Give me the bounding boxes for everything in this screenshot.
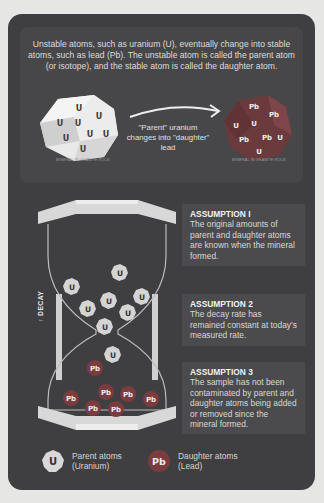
- svg-text:U: U: [102, 323, 108, 332]
- atom-u: U: [133, 288, 150, 305]
- assumption-1-title: ASSUMPTION I: [190, 209, 297, 219]
- svg-text:Pb: Pb: [249, 103, 259, 111]
- svg-text:Pb: Pb: [146, 396, 156, 404]
- atom-u-falling: U: [104, 346, 121, 363]
- svg-text:Pb: Pb: [262, 134, 272, 142]
- svg-text:U: U: [49, 456, 57, 467]
- legend-parent-line1: Parent atoms: [72, 451, 122, 461]
- left-mineral-label: MINERAL IN GRANITE ROCK: [38, 158, 128, 162]
- curved-arrow-icon: [128, 101, 224, 121]
- hourglass-illustration: U U U U U U U U Pb Pb Pb Pb Pb Pb Pb: [38, 200, 178, 430]
- atom-pb: Pb: [108, 401, 124, 417]
- atom-u: U: [63, 134, 70, 143]
- svg-text:Pb: Pb: [239, 136, 249, 144]
- assumption-3-text: The sample has not been contaminated by …: [190, 377, 297, 429]
- atom-pb: Pb: [143, 391, 159, 407]
- intro-text: Unstable atoms, such as uranium (U), eve…: [26, 39, 297, 72]
- atom-u: U: [80, 145, 87, 154]
- arrow-caption: "Parent" uranium changes into "daughter"…: [123, 123, 213, 153]
- atom-u: U: [111, 264, 128, 281]
- intro-panel: Unstable atoms, such as uranium (U), eve…: [20, 27, 303, 183]
- legend-parent: U Parent atoms (Uranium): [42, 450, 122, 472]
- uranium-atom-icon: U: [42, 450, 64, 472]
- atom-u: U: [63, 278, 80, 295]
- svg-text:U: U: [233, 122, 239, 130]
- assumption-2-box: ASSUMPTION 2 The decay rate has remained…: [182, 294, 305, 346]
- atom-u: U: [96, 318, 113, 335]
- atom-pb: Pb: [87, 360, 103, 376]
- svg-text:Pb: Pb: [90, 365, 100, 373]
- atom-pb: Pb: [85, 400, 101, 416]
- svg-text:Pb: Pb: [123, 391, 133, 399]
- atom-pb: Pb: [120, 386, 136, 402]
- atom-u: U: [96, 112, 103, 121]
- up-arrow-icon: ↑: [37, 318, 44, 322]
- atom-u: U: [57, 119, 64, 128]
- svg-text:Pb: Pb: [269, 111, 279, 119]
- atom-pb: Pb: [98, 384, 114, 400]
- atom-u: U: [100, 292, 117, 309]
- svg-text:Pb: Pb: [66, 395, 76, 403]
- decay-label: DECAY: [37, 291, 44, 316]
- decay-axis-label: ↑ DECAY: [37, 291, 44, 322]
- svg-text:U: U: [256, 148, 262, 156]
- svg-text:U: U: [117, 269, 123, 278]
- uranium-mineral-illustration: U U U U U U U U: [38, 95, 132, 163]
- assumption-1-text: The original amounts of parent and daugh…: [190, 219, 297, 261]
- legend-parent-line2: (Uranium): [72, 461, 122, 471]
- svg-text:U: U: [139, 293, 145, 302]
- right-mineral-label: MINERAL IN GRANITE ROCK: [214, 158, 304, 162]
- svg-text:U: U: [110, 351, 116, 360]
- svg-text:Pb: Pb: [88, 405, 98, 413]
- lead-atom-icon: Pb: [148, 450, 170, 472]
- legend-daughter: Pb Daughter atoms (Lead): [148, 450, 238, 472]
- svg-text:U: U: [125, 309, 131, 318]
- svg-text:U: U: [251, 120, 257, 128]
- svg-text:Pb: Pb: [111, 406, 121, 414]
- svg-text:Pb: Pb: [152, 456, 166, 467]
- infographic-card: Unstable atoms, such as uranium (U), eve…: [8, 14, 315, 490]
- svg-text:U: U: [106, 297, 112, 306]
- assumption-3-title: ASSUMPTION 3: [190, 367, 297, 377]
- assumption-2-title: ASSUMPTION 2: [190, 299, 297, 309]
- svg-text:Pb: Pb: [101, 389, 111, 397]
- atom-u: U: [103, 130, 110, 139]
- legend-daughter-line1: Daughter atoms: [178, 451, 238, 461]
- atom-u: U: [76, 104, 83, 113]
- assumption-2-text: The decay rate has remained constant at …: [190, 309, 297, 340]
- svg-text:U: U: [69, 283, 75, 292]
- lead-mineral-illustration: Pb Pb U U Pb Pb U U: [224, 95, 294, 163]
- assumption-1-box: ASSUMPTION I The original amounts of par…: [182, 204, 305, 266]
- legend-daughter-line2: (Lead): [178, 461, 238, 471]
- assumption-3-box: ASSUMPTION 3 The sample has not been con…: [182, 362, 305, 434]
- atom-u: U: [75, 119, 82, 128]
- svg-text:U: U: [85, 305, 91, 314]
- atom-u: U: [79, 300, 96, 317]
- atom-pb: Pb: [63, 390, 79, 406]
- atom-u: U: [87, 130, 94, 139]
- svg-text:U: U: [277, 134, 283, 142]
